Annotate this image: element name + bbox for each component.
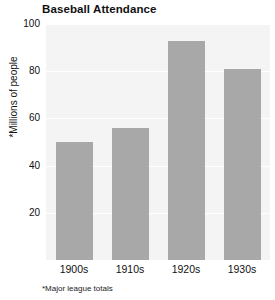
x-axis: 1900s1910s1920s1930s (46, 263, 270, 279)
x-tick-label-1900s: 1900s (46, 263, 102, 276)
bar-1930s (224, 69, 261, 260)
y-tick-label: 80 (29, 66, 40, 76)
plot-area (46, 24, 270, 260)
x-tick-label-1910s: 1910s (102, 263, 158, 276)
bar-1900s (56, 142, 93, 260)
baseball-attendance-chart: Baseball Attendance *Millions of people … (0, 0, 275, 300)
y-axis: *Millions of people 20406080100 (0, 0, 46, 300)
y-tick-label: 100 (23, 19, 40, 29)
y-tick-label: 40 (29, 161, 40, 171)
x-tick-label-1930s: 1930s (214, 263, 270, 276)
chart-footnote: *Major league totals (42, 284, 113, 294)
gridline (46, 24, 270, 25)
bar-1910s (112, 128, 149, 260)
y-axis-title: *Millions of people (7, 37, 21, 157)
y-tick-label: 60 (29, 113, 40, 123)
chart-title: Baseball Attendance (42, 2, 157, 16)
bar-1920s (168, 41, 205, 260)
y-tick-label: 20 (29, 208, 40, 218)
x-tick-label-1920s: 1920s (158, 263, 214, 276)
